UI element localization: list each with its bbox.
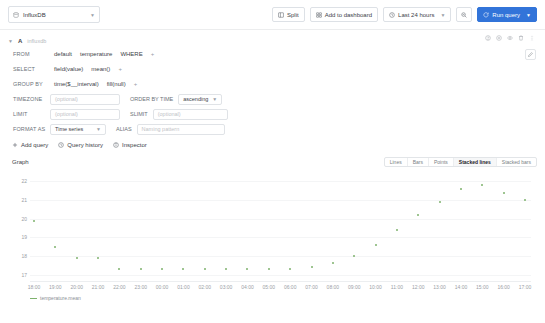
datasource-picker[interactable]: InfluxDB ▼	[8, 6, 100, 23]
query-datasource-hint: influxdb	[27, 38, 46, 44]
toolbar-actions: Split Add to dashboard Last 24 hour	[272, 7, 537, 22]
alias-input[interactable]: Naming pattern	[137, 124, 225, 135]
x-axis-tick-label: 15:00	[476, 284, 489, 290]
panel-title: Graph	[8, 159, 29, 165]
hide-query-icon[interactable]	[507, 35, 513, 41]
delete-query-icon[interactable]	[518, 35, 524, 41]
time-range-label: Last 24 hours	[398, 12, 434, 18]
select-aggregate-segment[interactable]: mean()	[87, 64, 114, 74]
add-to-dashboard-button[interactable]: Add to dashboard	[310, 7, 378, 22]
dashboard-icon	[316, 12, 322, 18]
data-point[interactable]	[353, 255, 355, 257]
where-segment[interactable]: WHERE	[116, 49, 146, 59]
format-as-select[interactable]: Time series ▼	[50, 124, 106, 135]
graph-type-points[interactable]: Points	[429, 158, 454, 166]
order-by-time-select[interactable]: ascending ▼	[178, 94, 222, 105]
chevron-down-icon[interactable]: ▼	[526, 12, 531, 18]
data-point[interactable]	[225, 268, 227, 270]
query-row-limit: LIMIT (optional) SLIMIT (optional)	[8, 107, 537, 121]
x-axis-tick-label: 12:00	[412, 284, 425, 290]
data-point[interactable]	[268, 268, 270, 270]
data-point[interactable]	[118, 268, 120, 270]
data-point[interactable]	[503, 192, 505, 194]
slimit-input[interactable]: (optional)	[153, 109, 228, 120]
add-query-label: Add query	[21, 142, 48, 148]
toggle-text-edit-mode-button[interactable]	[525, 49, 536, 60]
data-point[interactable]	[33, 220, 35, 222]
search-minus-icon	[461, 12, 467, 18]
legend-series-name[interactable]: temperature.mean	[40, 295, 81, 301]
format-as-label: FORMAT AS	[8, 126, 50, 132]
data-point[interactable]	[289, 268, 291, 270]
query-history-button[interactable]: Query history	[58, 142, 103, 148]
group-by-label: GROUP BY	[8, 81, 50, 87]
x-axis-tick-label: 07:00	[305, 284, 318, 290]
data-point[interactable]	[246, 268, 248, 270]
data-point[interactable]	[76, 257, 78, 259]
graph-type-lines[interactable]: Lines	[385, 158, 408, 166]
chevron-down-icon[interactable]: ▼	[440, 12, 445, 18]
graph-type-stacked-bars[interactable]: Stacked bars	[497, 158, 536, 166]
drag-handle-icon[interactable]	[529, 35, 535, 41]
database-icon	[13, 12, 19, 18]
data-point[interactable]	[332, 262, 334, 264]
data-point[interactable]	[460, 188, 462, 190]
add-select-part-button[interactable]: +	[114, 64, 126, 74]
x-axis-tick-label: 14:00	[455, 284, 468, 290]
select-field-segment[interactable]: field(value)	[50, 64, 87, 74]
collapse-chevron-icon[interactable]: ▼	[8, 38, 13, 44]
split-button[interactable]: Split	[272, 7, 305, 22]
limit-label: LIMIT	[8, 111, 50, 117]
data-point[interactable]	[182, 268, 184, 270]
graph-type-bars[interactable]: Bars	[408, 158, 429, 166]
time-range-picker[interactable]: Last 24 hours ▼	[383, 7, 451, 22]
data-point[interactable]	[97, 257, 99, 259]
graph-plot-area[interactable]: 22212019181718:0019:0020:0021:0022:0023:…	[8, 172, 537, 302]
x-axis-tick-label: 10:00	[369, 284, 382, 290]
data-point[interactable]	[54, 246, 56, 248]
x-axis-tick-label: 04:00	[241, 284, 254, 290]
help-icon[interactable]	[485, 35, 491, 41]
data-point[interactable]	[481, 184, 483, 186]
graph-legend: temperature.mean	[30, 295, 81, 301]
inspector-button[interactable]: Inspector	[113, 142, 147, 148]
graph-panel: Graph LinesBarsPointsStacked linesStacke…	[0, 156, 545, 302]
x-axis-tick-label: 23:00	[134, 284, 147, 290]
x-axis-tick-label: 18:00	[28, 284, 41, 290]
query-row-format-as: FORMAT AS Time series ▼ ALIAS Naming pat…	[8, 122, 537, 136]
query-row-timezone: TIMEZONE (optional) ORDER BY TIME ascend…	[8, 92, 537, 106]
duplicate-query-icon[interactable]	[496, 35, 502, 41]
data-point[interactable]	[140, 268, 142, 270]
run-query-button[interactable]: Run query ▼	[477, 7, 537, 22]
data-point[interactable]	[417, 214, 419, 216]
data-point[interactable]	[311, 266, 313, 268]
y-axis-tick-label: 17	[21, 272, 27, 278]
add-where-button[interactable]: +	[147, 49, 159, 59]
from-policy-segment[interactable]: default	[50, 49, 76, 59]
add-group-by-button[interactable]: +	[130, 79, 142, 89]
y-gridline	[30, 237, 531, 238]
add-query-button[interactable]: Add query	[12, 142, 48, 148]
plot-canvas[interactable]: 22212019181718:0019:0020:0021:0022:0023:…	[30, 174, 531, 282]
data-point[interactable]	[439, 201, 441, 203]
limit-input[interactable]: (optional)	[50, 109, 120, 120]
x-axis-tick-label: 02:00	[199, 284, 212, 290]
data-point[interactable]	[396, 229, 398, 231]
chevron-down-icon[interactable]: ▼	[90, 12, 95, 18]
zoom-out-button[interactable]	[456, 7, 472, 22]
from-measurement-segment[interactable]: temperature	[76, 49, 116, 59]
group-by-time-segment[interactable]: time($__interval)	[50, 79, 103, 89]
y-gridline	[30, 219, 531, 220]
x-axis-tick-label: 03:00	[220, 284, 233, 290]
y-axis-tick-label: 22	[21, 178, 27, 184]
timezone-label: TIMEZONE	[8, 96, 50, 102]
data-point[interactable]	[204, 268, 206, 270]
query-row-from: FROM default temperature WHERE +	[8, 47, 537, 61]
timezone-input[interactable]: (optional)	[50, 94, 120, 105]
data-point[interactable]	[161, 268, 163, 270]
query-letter[interactable]: A	[18, 38, 22, 44]
data-point[interactable]	[375, 244, 377, 246]
group-by-fill-segment[interactable]: fill(null)	[103, 79, 130, 89]
graph-type-stacked-lines[interactable]: Stacked lines	[454, 158, 497, 166]
data-point[interactable]	[524, 199, 526, 201]
